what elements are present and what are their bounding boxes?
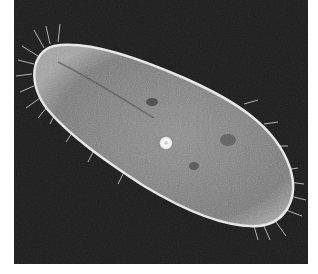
- vacuole: [159, 136, 173, 150]
- micrograph-photo: [14, 0, 308, 264]
- paramecium-illustration: [14, 0, 308, 264]
